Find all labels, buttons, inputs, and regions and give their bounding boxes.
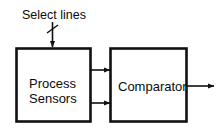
block-diagram-canvas: Select lines Process Sensors Comparator [0,0,224,134]
block-diagram-svg: Select lines Process Sensors Comparator [0,0,224,134]
process-sensors-label-line2: Sensors [29,91,77,106]
select-lines-bus-connector [47,22,58,47]
comparator-block: Comparator [111,49,188,122]
comparator-label: Comparator [118,79,187,94]
process-sensors-label-line1: Process [29,76,76,91]
select-lines-label: Select lines [22,8,86,22]
process-sensors-block: Process Sensors [17,49,91,122]
